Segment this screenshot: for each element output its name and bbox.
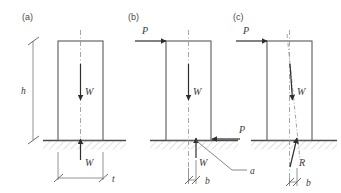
panel-b-pivot-label: a	[250, 166, 255, 176]
panel-c-applied-top-arrow: P	[236, 25, 267, 41]
panel-c: (c) P W	[233, 12, 337, 188]
panel-a-width-label: t	[112, 174, 115, 184]
panel-b-applied-top-label: P	[141, 25, 148, 36]
panel-b: (b) P P W	[128, 12, 255, 186]
panel-a-reaction-label: W	[85, 157, 95, 168]
panel-a-height-dimension: h	[21, 37, 39, 144]
panel-a-label: (a)	[22, 12, 33, 22]
panel-a: (a) h W	[21, 12, 126, 184]
panel-c-offset-dimension: b	[286, 168, 311, 188]
panel-a-weight-label: W	[85, 86, 95, 97]
panel-b-label: (b)	[128, 12, 139, 22]
figure-container: (a) h W	[0, 0, 341, 193]
panel-b-offset-label: b	[205, 176, 210, 186]
panel-b-weight-arrow: W	[189, 64, 204, 100]
panel-b-ground	[150, 141, 238, 150]
statics-figure: (a) h W	[0, 0, 341, 193]
panel-c-label: (c)	[233, 12, 244, 22]
panel-c-offset-label: b	[306, 178, 311, 188]
panel-b-weight-label: W	[193, 86, 203, 97]
panel-c-weight-arrow: W	[290, 64, 307, 100]
panel-b-applied-bottom-arrow: P	[212, 124, 245, 139]
panel-b-reaction-label: W	[199, 157, 209, 168]
panel-b-applied-bottom-label: P	[238, 124, 245, 135]
panel-c-applied-top-label: P	[242, 25, 249, 36]
panel-b-applied-top-arrow: P	[135, 25, 166, 41]
panel-a-weight-arrow: W	[81, 64, 96, 100]
panel-a-ground	[43, 141, 126, 150]
panel-c-weight-label: W	[297, 86, 307, 97]
panel-c-reaction-label: R	[298, 157, 305, 168]
panel-a-height-label: h	[21, 86, 26, 96]
